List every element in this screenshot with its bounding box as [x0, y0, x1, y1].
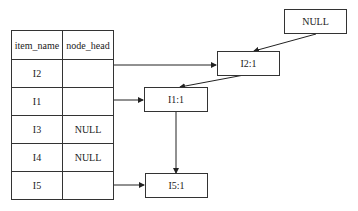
i1-node: I1:1: [144, 87, 208, 112]
arrow-null-to-i2: [254, 34, 316, 51]
i5-node: I5:1: [145, 173, 208, 198]
null-node: NULL: [284, 9, 347, 34]
arrow-i2-to-i1: [180, 75, 244, 87]
i2-node: I2:1: [217, 51, 280, 76]
